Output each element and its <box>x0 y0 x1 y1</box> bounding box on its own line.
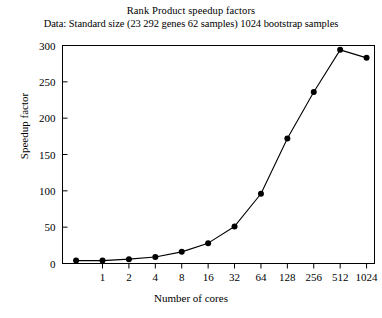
data-point-marker <box>100 258 106 264</box>
data-point-marker <box>364 55 370 61</box>
x-axis-ticks: 12481632641282565121024 <box>100 264 378 283</box>
x-tick-label: 1 <box>100 271 106 283</box>
data-point-marker <box>284 136 290 142</box>
data-point-marker <box>337 47 343 53</box>
plot-area: 050100150200250300 124816326412825651210… <box>0 0 382 318</box>
data-point-marker <box>152 254 158 260</box>
x-tick-label: 1024 <box>356 271 379 283</box>
x-tick-label: 512 <box>332 271 349 283</box>
data-point-marker <box>232 223 238 229</box>
y-tick-label: 300 <box>39 40 56 52</box>
data-markers <box>73 47 369 264</box>
x-tick-label: 32 <box>229 271 240 283</box>
data-series-speedup <box>73 47 369 264</box>
y-tick-label: 50 <box>45 221 57 233</box>
data-point-marker <box>179 249 185 255</box>
data-point-marker <box>126 256 132 262</box>
y-axis-ticks: 050100150200250300 <box>39 40 68 270</box>
x-tick-label: 2 <box>126 271 132 283</box>
data-point-marker <box>205 240 211 246</box>
x-tick-label: 256 <box>306 271 323 283</box>
y-tick-label: 0 <box>50 258 56 270</box>
data-point-marker <box>73 258 79 264</box>
x-tick-label: 128 <box>279 271 296 283</box>
plot-frame <box>63 46 375 264</box>
y-tick-label: 250 <box>39 76 56 88</box>
data-point-marker <box>258 191 264 197</box>
x-tick-label: 4 <box>153 271 159 283</box>
chart-figure: Rank Product speedup factors Data: Stand… <box>0 0 382 318</box>
y-tick-label: 150 <box>39 149 56 161</box>
data-point-marker <box>311 89 317 95</box>
x-tick-label: 8 <box>179 271 185 283</box>
x-tick-label: 64 <box>255 271 267 283</box>
y-tick-label: 100 <box>39 185 56 197</box>
y-tick-label: 200 <box>39 112 56 124</box>
x-tick-label: 16 <box>203 271 215 283</box>
